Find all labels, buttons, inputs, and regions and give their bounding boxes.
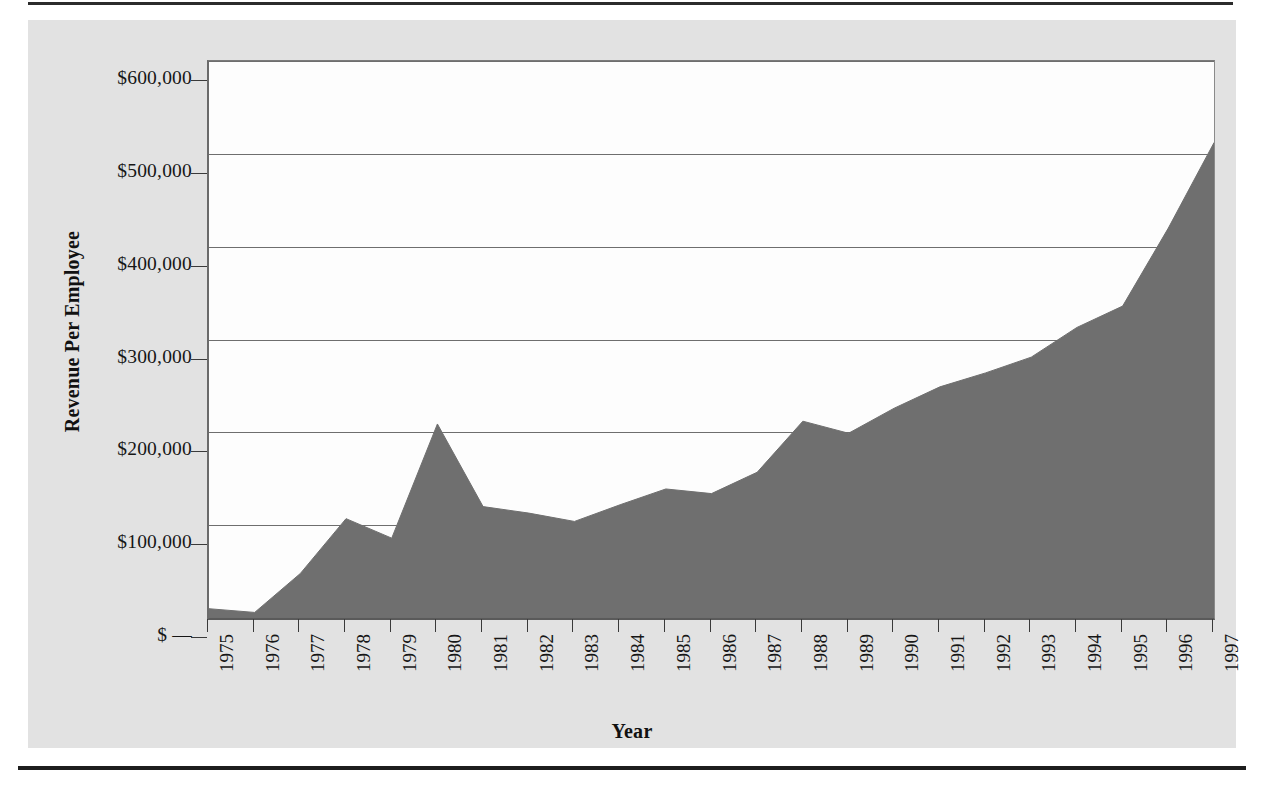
x-axis-tick-label: 1995 bbox=[1130, 634, 1152, 714]
x-axis-tick-label: 1991 bbox=[947, 634, 969, 714]
x-axis-tick-mark bbox=[253, 619, 254, 632]
x-axis-tick-mark bbox=[481, 619, 482, 632]
x-axis-tick-label: 1979 bbox=[399, 634, 421, 714]
x-axis-tick-label: 1983 bbox=[581, 634, 603, 714]
x-axis-tick-label: 1987 bbox=[764, 634, 786, 714]
x-axis-tick-label: 1978 bbox=[353, 634, 375, 714]
x-axis-tick-mark bbox=[1121, 619, 1122, 632]
x-axis-tick-label: 1985 bbox=[673, 634, 695, 714]
x-axis-tick-label: 1986 bbox=[719, 634, 741, 714]
x-axis-tick-label: 1982 bbox=[536, 634, 558, 714]
y-axis-tick-mark bbox=[191, 637, 207, 638]
x-axis-tick-label: 1994 bbox=[1084, 634, 1106, 714]
y-axis-tick-label: $ — bbox=[157, 624, 192, 646]
y-axis-tick-mark bbox=[191, 544, 207, 545]
x-axis-tick-mark bbox=[298, 619, 299, 632]
y-axis-tick-mark bbox=[191, 80, 207, 81]
y-axis-tick-mark bbox=[191, 359, 207, 360]
y-axis-tick-mark bbox=[191, 451, 207, 452]
x-axis-tick-mark bbox=[435, 619, 436, 632]
y-axis-tick-labels: $ —$100,000$200,000$300,000$400,000$500,… bbox=[88, 40, 192, 768]
x-axis-tick-mark bbox=[390, 619, 391, 632]
x-axis-tick-label: 1989 bbox=[856, 634, 878, 714]
x-axis-tick-mark bbox=[1029, 619, 1030, 632]
x-axis-tick-label: 1977 bbox=[307, 634, 329, 714]
x-axis-tick-marks bbox=[207, 619, 1213, 633]
x-axis-title: Year bbox=[28, 720, 1236, 743]
x-axis-tick-mark bbox=[1212, 619, 1213, 632]
x-axis-tick-mark bbox=[938, 619, 939, 632]
x-axis-tick-label: 1980 bbox=[444, 634, 466, 714]
y-axis-tick-label: $400,000 bbox=[117, 253, 192, 275]
y-axis-tick-label: $300,000 bbox=[117, 346, 192, 368]
y-axis-tick-label: $600,000 bbox=[117, 67, 192, 89]
x-axis-tick-mark bbox=[984, 619, 985, 632]
plot-inner bbox=[209, 61, 1214, 618]
x-axis-tick-mark bbox=[1075, 619, 1076, 632]
x-axis-tick-mark bbox=[527, 619, 528, 632]
x-axis-tick-label: 1992 bbox=[993, 634, 1015, 714]
x-axis-tick-mark bbox=[847, 619, 848, 632]
x-axis-tick-mark bbox=[207, 619, 208, 632]
x-axis-tick-mark bbox=[892, 619, 893, 632]
x-axis-tick-mark bbox=[664, 619, 665, 632]
y-axis-tick-label: $200,000 bbox=[117, 438, 192, 460]
plot-area bbox=[207, 60, 1215, 620]
x-axis-tick-label: 1975 bbox=[216, 634, 238, 714]
revenue-per-employee-area-series bbox=[209, 61, 1214, 618]
chart-panel: Revenue Per Employee $ —$100,000$200,000… bbox=[28, 20, 1236, 748]
figure: Revenue Per Employee $ —$100,000$200,000… bbox=[0, 0, 1263, 792]
x-axis-tick-mark bbox=[710, 619, 711, 632]
x-axis-tick-label: 1988 bbox=[810, 634, 832, 714]
x-axis-tick-label: 1996 bbox=[1175, 634, 1197, 714]
x-axis-tick-mark bbox=[344, 619, 345, 632]
x-axis-tick-label: 1993 bbox=[1038, 634, 1060, 714]
x-axis-tick-label: 1981 bbox=[490, 634, 512, 714]
x-axis-tick-mark bbox=[755, 619, 756, 632]
x-axis-tick-label: 1990 bbox=[901, 634, 923, 714]
y-axis-title: Revenue Per Employee bbox=[61, 202, 84, 462]
x-axis-tick-label: 1976 bbox=[262, 634, 284, 714]
x-axis-tick-label: 1997 bbox=[1221, 634, 1243, 714]
bottom-horizontal-rule bbox=[18, 766, 1246, 770]
y-axis-tick-label: $500,000 bbox=[117, 160, 192, 182]
top-horizontal-rule bbox=[28, 2, 1233, 5]
x-axis-tick-mark bbox=[618, 619, 619, 632]
x-axis-tick-label: 1984 bbox=[627, 634, 649, 714]
y-axis-tick-mark bbox=[191, 173, 207, 174]
x-axis-tick-labels: 1975197619771978197919801981198219831984… bbox=[207, 636, 1213, 716]
area-fill bbox=[209, 143, 1214, 618]
y-axis-tick-mark bbox=[191, 266, 207, 267]
x-axis-tick-mark bbox=[1166, 619, 1167, 632]
x-axis-tick-mark bbox=[801, 619, 802, 632]
y-axis-tick-label: $100,000 bbox=[117, 531, 192, 553]
x-axis-tick-mark bbox=[572, 619, 573, 632]
